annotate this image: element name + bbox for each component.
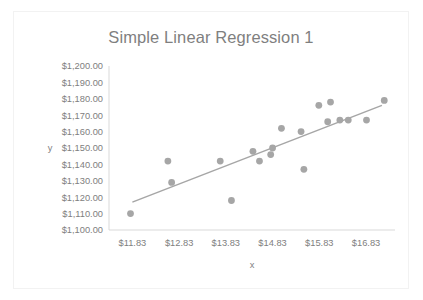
y-axis-tick-label: $1,120.00 xyxy=(62,193,103,203)
x-axis-tick-label: $15.83 xyxy=(305,238,333,248)
data-point xyxy=(256,158,263,165)
data-point xyxy=(217,158,224,165)
data-point xyxy=(228,197,235,204)
data-point xyxy=(298,128,305,135)
y-axis-tick-label: $1,190.00 xyxy=(62,78,103,88)
scatter-plot: $1,200.00$1,190.00$1,180.00$1,170.00$1,1… xyxy=(14,12,410,290)
x-axis-tick-label: $11.83 xyxy=(118,238,146,248)
y-axis-tick-label: $1,130.00 xyxy=(62,176,103,186)
data-point xyxy=(336,117,343,124)
y-axis-tick-label: $1,110.00 xyxy=(62,209,103,219)
chart-card: Simple Linear Regression 1 $1,200.00$1,1… xyxy=(13,11,409,289)
data-point xyxy=(345,117,352,124)
y-axis-tick-label: $1,200.00 xyxy=(62,61,103,71)
y-axis-tick-label: $1,180.00 xyxy=(62,94,103,104)
data-point xyxy=(300,166,307,173)
y-axis-tick-label: $1,160.00 xyxy=(62,127,103,137)
x-axis-tick-labels: $11.83$12.83$13.83$14.83$15.83$16.83 xyxy=(118,238,380,248)
data-point xyxy=(315,102,322,109)
data-point xyxy=(267,151,274,158)
data-point xyxy=(278,125,285,132)
y-axis-title: y xyxy=(48,143,53,153)
data-point xyxy=(164,158,171,165)
data-point-markers xyxy=(127,97,388,217)
x-axis-tick-label: $13.83 xyxy=(212,238,240,248)
x-axis-tick-label: $16.83 xyxy=(352,238,380,248)
data-point xyxy=(327,99,334,106)
regression-trend-line xyxy=(132,105,382,202)
data-point xyxy=(250,148,257,155)
y-axis-tick-labels: $1,200.00$1,190.00$1,180.00$1,170.00$1,1… xyxy=(62,61,103,235)
y-axis-tick-label: $1,170.00 xyxy=(62,111,103,121)
y-axis-tick-label: $1,150.00 xyxy=(62,143,103,153)
x-axis-title: x xyxy=(250,260,255,270)
data-point xyxy=(324,118,331,125)
data-point xyxy=(269,145,276,152)
y-axis-tick-label: $1,100.00 xyxy=(62,225,103,235)
data-point xyxy=(168,179,175,186)
data-point xyxy=(381,97,388,104)
x-axis-tick-label: $12.83 xyxy=(165,238,193,248)
x-axis-tick-label: $14.83 xyxy=(258,238,286,248)
data-point xyxy=(127,210,134,217)
data-point xyxy=(363,117,370,124)
y-axis-tick-label: $1,140.00 xyxy=(62,160,103,170)
